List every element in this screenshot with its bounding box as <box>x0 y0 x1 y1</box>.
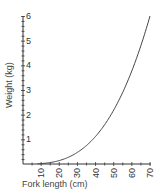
x-tick-label: 60 <box>127 168 137 178</box>
y-tick-label: 1 <box>26 134 31 144</box>
x-tick-label: 20 <box>54 168 64 178</box>
x-tick-label: 30 <box>72 168 82 178</box>
axes <box>23 16 151 164</box>
x-tick-label: 10 <box>36 168 46 178</box>
x-axis-title: Fork length (cm) <box>22 179 88 189</box>
x-tick-label: 40 <box>91 168 101 178</box>
y-tick-label: 2 <box>26 110 31 120</box>
y-axis-title: Weight (kg) <box>4 62 14 108</box>
weight-length-chart: 12345610203040506070 Fork length (cm) We… <box>0 0 162 195</box>
y-tick-label: 4 <box>26 60 31 70</box>
y-tick-label: 6 <box>26 11 31 21</box>
y-tick-label: 5 <box>26 36 31 46</box>
data-curve <box>38 16 150 164</box>
x-tick-label: 50 <box>109 168 119 178</box>
y-tick-label: 3 <box>26 85 31 95</box>
x-tick-label: 70 <box>145 168 155 178</box>
tick-labels: 12345610203040506070 <box>26 11 155 178</box>
ticks <box>21 17 150 167</box>
